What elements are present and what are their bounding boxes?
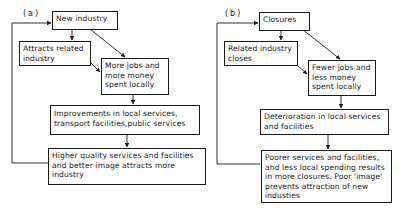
box-deterioration: Deterioration in local services and faci…	[260, 109, 389, 135]
box-improvements: Improvements in local services, transpor…	[50, 105, 200, 135]
arrow-start-to-jobs-b	[302, 29, 340, 59]
box-more-jobs: More jobs and more money spent locally	[101, 58, 169, 95]
box-attracts-related-industry: Attracts related industry	[19, 41, 91, 66]
arrow-related-to-jobs-a	[90, 62, 100, 72]
box-related-industry-closes: Related industry closes	[224, 41, 298, 66]
arrow-related-to-jobs-b	[297, 65, 307, 74]
box-closures: Closures	[259, 12, 310, 31]
panel-b-label: (b)	[225, 9, 242, 18]
box-higher-quality: Higher quality services and facilities a…	[48, 148, 206, 185]
box-poorer-services: Poorer services and facilities, and less…	[261, 150, 392, 203]
panel-a-label: (a)	[23, 9, 40, 18]
box-fewer-jobs: Fewer jobs and less money spent locally	[308, 60, 376, 96]
arrow-start-to-jobs-a	[90, 29, 125, 57]
box-new-industry: New industry	[52, 11, 118, 30]
